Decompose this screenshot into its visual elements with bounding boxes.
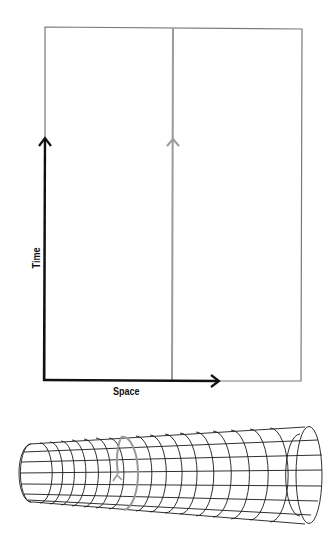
cylinder-worldline-arrowhead-icon xyxy=(113,475,122,481)
space-axis-label: Space xyxy=(113,385,140,397)
cylindrical-spacetime-panel xyxy=(19,427,322,525)
mesh-longitudinal-lines xyxy=(20,427,322,524)
cylinder-worldline-front xyxy=(117,437,121,474)
time-axis-label: Time xyxy=(30,248,42,269)
time-axis xyxy=(44,139,45,381)
spacetime-figure xyxy=(0,0,335,549)
flat-spacetime-panel xyxy=(39,27,302,387)
space-axis xyxy=(43,380,218,381)
worldline xyxy=(172,28,173,380)
